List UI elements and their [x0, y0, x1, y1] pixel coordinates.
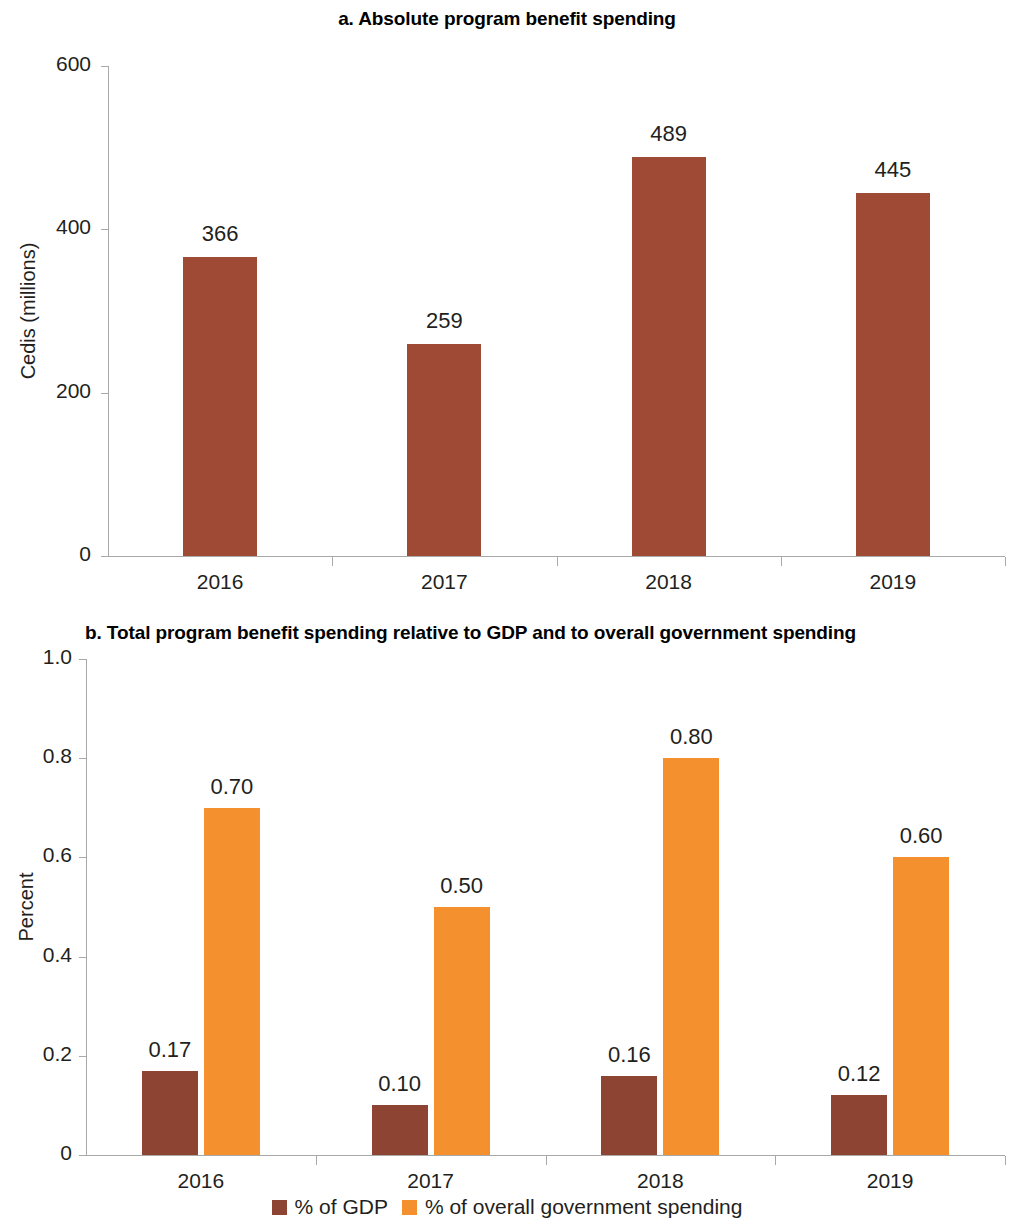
y-tick-a — [101, 229, 108, 230]
bar-value-label-b-govspend: 0.60 — [861, 823, 981, 849]
y-tick-a — [101, 393, 108, 394]
y-tick-b — [79, 1056, 86, 1057]
y-tick-a — [101, 556, 108, 557]
x-tick-label-a: 2019 — [823, 570, 963, 594]
plot-area-a: 0200400600Cedis (millions)36620162592017… — [0, 50, 1014, 610]
y-tick-label-b: 0.2 — [0, 1042, 72, 1066]
panel-b-title: b. Total program benefit spending relati… — [85, 622, 856, 644]
x-tick-a — [557, 557, 558, 566]
x-tick-label-b: 2019 — [820, 1169, 960, 1193]
legend-item: % of GDP — [272, 1195, 388, 1219]
legend-item: % of overall government spending — [402, 1195, 743, 1219]
y-tick-label-b: 0 — [0, 1141, 72, 1165]
bar-panel-b-gdp — [601, 1076, 657, 1155]
panel-a-title: a. Absolute program benefit spending — [0, 8, 1014, 30]
bar-panel-a — [856, 193, 930, 556]
x-tick-a — [332, 557, 333, 566]
legend-label: % of GDP — [295, 1195, 388, 1219]
y-tick-b — [79, 1155, 86, 1156]
y-tick-a — [101, 66, 108, 67]
bar-panel-b-gdp — [142, 1071, 198, 1155]
bar-panel-b-govspend — [893, 857, 949, 1155]
x-tick-label-b: 2016 — [131, 1169, 271, 1193]
y-axis-line-a — [108, 66, 109, 556]
x-tick-label-a: 2017 — [374, 570, 514, 594]
legend-swatch-govspend — [402, 1200, 417, 1215]
bar-panel-b-govspend — [204, 808, 260, 1155]
bar-value-label-a: 489 — [609, 121, 729, 147]
y-tick-b — [79, 659, 86, 660]
bar-value-label-b-govspend: 0.70 — [172, 774, 292, 800]
y-axis-title-a: Cedis (millions) — [17, 243, 40, 380]
y-tick-b — [79, 957, 86, 958]
x-tick-b — [775, 1156, 776, 1165]
y-axis-title-b: Percent — [15, 873, 38, 942]
y-tick-label-a: 0 — [13, 542, 91, 566]
bar-panel-a — [632, 157, 706, 556]
y-tick-label-a: 400 — [13, 215, 91, 239]
chart-panel-a: 0200400600Cedis (millions)36620162592017… — [0, 50, 1014, 610]
y-tick-label-b: 1.0 — [0, 645, 72, 669]
x-tick-label-b: 2017 — [361, 1169, 501, 1193]
bar-panel-b-gdp — [372, 1105, 428, 1155]
x-tick-label-a: 2018 — [599, 570, 739, 594]
figure-container: a. Absolute program benefit spending 020… — [0, 0, 1014, 1228]
y-tick-label-b: 0.8 — [0, 744, 72, 768]
y-tick-label-b: 0.6 — [0, 843, 72, 867]
bar-value-label-a: 366 — [160, 221, 280, 247]
y-tick-b — [79, 758, 86, 759]
bar-value-label-a: 445 — [833, 157, 953, 183]
y-tick-label-b: 0.4 — [0, 943, 72, 967]
x-tick-b — [546, 1156, 547, 1165]
y-tick-label-a: 600 — [13, 52, 91, 76]
plot-area-b: 00.20.40.60.81.0Percent0.170.7020160.100… — [0, 645, 1014, 1190]
legend: % of GDP% of overall government spending — [0, 1195, 1014, 1219]
legend-swatch-gdp — [272, 1200, 287, 1215]
y-tick-b — [79, 857, 86, 858]
x-tick-label-a: 2016 — [150, 570, 290, 594]
bar-panel-b-govspend — [434, 907, 490, 1155]
y-axis-line-b — [86, 659, 87, 1155]
x-tick-a — [781, 557, 782, 566]
bar-value-label-a: 259 — [384, 308, 504, 334]
x-tick-b-end — [1005, 1156, 1006, 1165]
chart-panel-b: 00.20.40.60.81.0Percent0.170.7020160.100… — [0, 645, 1014, 1190]
legend-label: % of overall government spending — [425, 1195, 743, 1219]
x-tick-a-end — [1005, 557, 1006, 566]
bar-panel-b-govspend — [663, 758, 719, 1155]
x-tick-label-b: 2018 — [590, 1169, 730, 1193]
y-tick-label-a: 200 — [13, 379, 91, 403]
bar-panel-a — [183, 257, 257, 556]
bar-value-label-b-govspend: 0.50 — [402, 873, 522, 899]
x-tick-b — [316, 1156, 317, 1165]
bar-panel-b-gdp — [831, 1095, 887, 1155]
bar-value-label-b-govspend: 0.80 — [631, 724, 751, 750]
bar-panel-a — [407, 344, 481, 556]
